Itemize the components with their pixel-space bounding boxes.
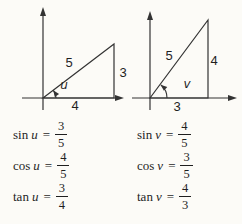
- numerator: 4: [179, 181, 191, 197]
- left-triangle: [43, 44, 114, 98]
- function-name: tan: [137, 189, 153, 205]
- left-triangle-diagram: 5 3 4 u: [22, 7, 127, 113]
- right-triangle: [150, 20, 208, 98]
- textbook-trig-figure: 5 3 4 u 5 4 3 v sin u = 3 5: [0, 0, 242, 224]
- fraction: 3 5: [180, 150, 192, 182]
- left-y-axis-arrow-icon: [40, 7, 46, 16]
- formula-column-u: sin u = 3 5 cos u = 4 5 tan u = 3 4: [13, 119, 69, 212]
- denominator: 5: [180, 165, 192, 182]
- angle-variable: v: [157, 158, 163, 174]
- formula-sin-u: sin u = 3 5: [13, 119, 69, 150]
- left-hypotenuse-label: 5: [65, 55, 72, 70]
- numerator: 4: [178, 119, 190, 135]
- left-angle-label: u: [60, 78, 68, 92]
- equals-sign: =: [45, 158, 52, 174]
- right-y-axis-arrow-icon: [147, 11, 153, 20]
- angle-variable: u: [33, 158, 40, 174]
- formula-tan-u: tan u = 3 4: [13, 181, 69, 212]
- left-angle-arc-arrow-icon: [51, 89, 59, 97]
- equals-sign: =: [167, 189, 174, 205]
- function-name: cos: [137, 158, 154, 174]
- triangle-diagrams: 5 3 4 u 5 4 3 v: [0, 0, 242, 118]
- numerator: 3: [55, 119, 67, 135]
- denominator: 5: [178, 134, 190, 151]
- function-name: sin: [137, 127, 152, 143]
- equals-sign: =: [43, 127, 50, 143]
- formula-column-v: sin v = 4 5 cos v = 3 5 tan v = 4 3: [137, 119, 193, 212]
- function-name: cos: [13, 158, 30, 174]
- numerator: 3: [180, 150, 192, 166]
- left-x-axis-arrow-icon: [115, 95, 124, 101]
- right-opposite-label: 4: [210, 53, 217, 68]
- right-angle-label: v: [183, 77, 191, 91]
- equals-sign: =: [43, 189, 50, 205]
- left-opposite-label: 3: [119, 65, 126, 80]
- angle-variable: u: [32, 189, 39, 205]
- left-adjacent-label: 4: [71, 98, 78, 113]
- function-name: tan: [13, 189, 29, 205]
- fraction: 4 5: [57, 150, 69, 182]
- fraction: 3 4: [56, 181, 68, 213]
- fraction: 4 5: [178, 119, 190, 151]
- formula-cos-u: cos u = 4 5: [13, 150, 69, 181]
- fraction: 4 3: [179, 181, 191, 213]
- right-x-axis-arrow-icon: [228, 95, 237, 101]
- equals-sign: =: [166, 127, 173, 143]
- right-triangle-diagram: 5 4 3 v: [132, 11, 237, 114]
- equals-sign: =: [168, 158, 175, 174]
- denominator: 3: [179, 196, 191, 213]
- angle-variable: v: [155, 127, 161, 143]
- right-adjacent-label: 3: [173, 99, 180, 114]
- function-name: sin: [13, 127, 28, 143]
- fraction: 3 5: [55, 119, 67, 151]
- denominator: 5: [55, 134, 67, 151]
- formula-cos-v: cos v = 3 5: [137, 150, 193, 181]
- right-hypotenuse-label: 5: [165, 48, 172, 63]
- numerator: 4: [57, 150, 69, 166]
- denominator: 5: [57, 165, 69, 182]
- denominator: 4: [56, 196, 68, 213]
- angle-variable: u: [31, 127, 38, 143]
- angle-variable: v: [156, 189, 162, 205]
- numerator: 3: [56, 181, 68, 197]
- formula-sin-v: sin v = 4 5: [137, 119, 193, 150]
- formula-tan-v: tan v = 4 3: [137, 181, 193, 212]
